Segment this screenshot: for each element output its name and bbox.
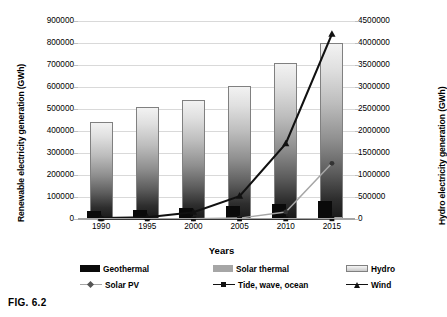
y-tick-label-right: 4500000: [358, 16, 410, 25]
legend-swatch-solar-thermal-icon: [213, 265, 233, 272]
y-tick-label-right: 4000000: [358, 38, 410, 47]
x-tick-label: 2010: [263, 222, 309, 231]
y-tick-label-left: 300000: [28, 148, 74, 157]
marker-wind: [282, 140, 289, 147]
y-tick-label-right: 1500000: [358, 148, 410, 157]
legend-item[interactable]: Wind: [346, 277, 410, 292]
legend-swatch-hydro-icon: [346, 265, 368, 272]
y-tick-label-left: 400000: [28, 126, 74, 135]
y-tick-label-left: 500000: [28, 104, 74, 113]
x-tick-label: 2000: [170, 222, 216, 231]
line-series-group: [78, 21, 355, 219]
chart-legend: GeothermalSolar thermalHydro Solar PVTid…: [80, 261, 410, 297]
legend-marker-triangle-icon: [354, 282, 360, 288]
y-tick-mark-right: [355, 87, 359, 88]
y-tick-label-right: 3500000: [358, 60, 410, 69]
legend-swatch-line-triangle-icon: [346, 281, 368, 289]
marker-wind: [328, 30, 335, 37]
marker-solar-pv: [330, 161, 335, 166]
y-tick-mark-right: [355, 219, 359, 220]
x-tick-label: 2005: [217, 222, 263, 231]
y-tick-mark-right: [355, 21, 359, 22]
y-tick-label-left: 0: [28, 214, 74, 223]
y-tick-label-right: 1000000: [358, 170, 410, 179]
x-tick-label: 1990: [78, 222, 124, 231]
plot-area: [78, 21, 355, 219]
y-tick-mark-right: [355, 109, 359, 110]
legend-label: Solar PV: [105, 280, 139, 290]
line-solar-pv: [101, 163, 332, 219]
y-tick-mark-right: [355, 43, 359, 44]
legend-marker-square-icon: [221, 282, 226, 287]
y-tick-mark-right: [355, 131, 359, 132]
legend-label: Geothermal: [103, 264, 149, 274]
y-tick-mark-right: [355, 175, 359, 176]
legend-label: Wind: [371, 280, 391, 290]
legend-item[interactable]: Hydro: [346, 261, 410, 276]
legend-marker-diamond-icon: [87, 281, 94, 288]
y-axis-title-left: Renewable electricity generation (GWh): [16, 64, 26, 222]
legend-label: Solar thermal: [236, 264, 289, 274]
legend-swatch-line-diamond-icon: [80, 281, 102, 289]
y-tick-label-right: 3000000: [358, 82, 410, 91]
legend-item[interactable]: Solar thermal: [213, 261, 346, 276]
y-tick-mark-right: [355, 197, 359, 198]
marker-solar-pv: [283, 210, 288, 215]
y-tick-mark-right: [355, 65, 359, 66]
y-tick-label-left: 600000: [28, 82, 74, 91]
legend-label: Hydro: [371, 264, 395, 274]
legend-row-1: GeothermalSolar thermalHydro: [80, 261, 410, 276]
line-wind: [101, 34, 332, 218]
legend-swatch-line-square-icon: [213, 281, 235, 289]
y-tick-label-left: 200000: [28, 170, 74, 179]
x-tick-label: 1995: [124, 222, 170, 231]
axis-baseline: [78, 218, 355, 219]
y-tick-label-right: 500000: [358, 192, 410, 201]
legend-swatch-geothermal-icon: [80, 265, 100, 272]
y-tick-label-left: 700000: [28, 60, 74, 69]
y-tick-mark-right: [355, 153, 359, 154]
y-tick-label-left: 900000: [28, 16, 74, 25]
legend-item[interactable]: Solar PV: [80, 277, 213, 292]
legend-item[interactable]: Tide, wave, ocean: [213, 277, 346, 292]
x-axis-title: Years: [0, 245, 443, 256]
legend-item[interactable]: Geothermal: [80, 261, 213, 276]
figure-caption: FIG. 6.2: [8, 297, 47, 308]
x-tick-label: 2015: [309, 222, 355, 231]
y-tick-label-right: 0: [358, 214, 410, 223]
y-tick-label-right: 2000000: [358, 126, 410, 135]
y-tick-label-left: 100000: [28, 192, 74, 201]
y-axis-title-right: Hydro electricity generation (GWh): [437, 87, 447, 225]
y-tick-label-left: 800000: [28, 38, 74, 47]
y-tick-label-right: 2500000: [358, 104, 410, 113]
legend-label: Tide, wave, ocean: [238, 280, 308, 290]
legend-row-2: Solar PVTide, wave, oceanWind: [80, 277, 410, 292]
